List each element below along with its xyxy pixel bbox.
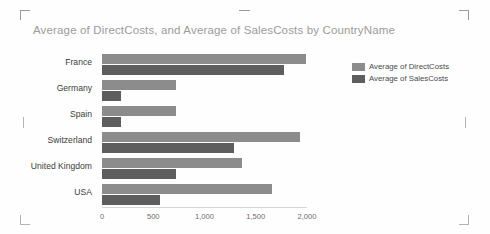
bar-sales-costs[interactable] [102, 91, 121, 101]
x-axis-tick-label: 1,500 [246, 212, 265, 221]
legend-swatch-icon [352, 75, 365, 83]
bar-direct-costs[interactable] [102, 80, 176, 90]
resize-handle-top-center[interactable] [239, 10, 250, 11]
x-axis-tick-label: 1,000 [195, 212, 214, 221]
y-axis-category-labels: FranceGermanySpainSwitzerlandUnited King… [0, 52, 98, 208]
bar-sales-costs[interactable] [102, 169, 176, 179]
y-axis-category-label[interactable]: USA [74, 187, 92, 197]
bar-direct-costs[interactable] [102, 106, 176, 116]
bar-direct-costs[interactable] [102, 184, 272, 194]
bar-direct-costs[interactable] [102, 158, 242, 168]
chart-visual-container[interactable]: Average of DirectCosts, and Average of S… [0, 0, 490, 234]
bar-direct-costs[interactable] [102, 54, 306, 64]
bar-sales-costs[interactable] [102, 143, 234, 153]
bars-area [102, 52, 307, 208]
y-axis-category-label[interactable]: United Kingdom [31, 161, 92, 171]
x-axis-tick-labels: 05001,0001,5002,000 [0, 212, 490, 226]
bar-direct-costs[interactable] [102, 132, 300, 142]
resize-handle-top-left[interactable] [20, 10, 30, 20]
legend-label: Average of SalesCosts [369, 74, 448, 83]
chart-legend[interactable]: Average of DirectCostsAverage of SalesCo… [352, 62, 484, 86]
bar-sales-costs[interactable] [102, 117, 121, 127]
legend-item[interactable]: Average of DirectCosts [352, 62, 484, 71]
bar-sales-costs[interactable] [102, 65, 284, 75]
y-axis-category-label[interactable]: Germany [57, 83, 92, 93]
legend-swatch-icon [352, 63, 365, 71]
resize-handle-top-right[interactable] [459, 10, 469, 20]
y-axis-category-label[interactable]: Spain [70, 109, 92, 119]
x-axis-tick-label: 0 [100, 212, 104, 221]
chart-title: Average of DirectCosts, and Average of S… [33, 24, 395, 36]
bar-sales-costs[interactable] [102, 195, 160, 205]
x-axis-tick-label: 2,000 [297, 212, 316, 221]
y-axis-category-label[interactable]: Switzerland [48, 135, 92, 145]
y-axis-category-label[interactable]: France [65, 57, 92, 67]
x-axis-line [102, 207, 307, 208]
legend-label: Average of DirectCosts [369, 62, 449, 71]
x-axis-tick-label: 500 [147, 212, 160, 221]
legend-item[interactable]: Average of SalesCosts [352, 74, 484, 83]
